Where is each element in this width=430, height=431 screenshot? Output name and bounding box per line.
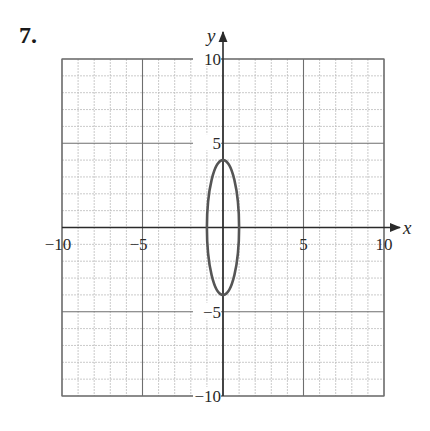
figure: 7. −10−5510105−5−10 x y (0, 0, 430, 431)
y-tick-label: 10 (204, 50, 221, 69)
x-tick-label: −10 (45, 235, 72, 254)
x-tick-label: 10 (376, 235, 393, 254)
y-tick-label: 5 (213, 134, 222, 153)
y-tick-label: −5 (203, 303, 221, 322)
x-axis-label: x (402, 217, 412, 238)
x-tick-label: −5 (129, 235, 147, 254)
y-tick-label: −10 (194, 387, 221, 406)
y-axis-label: y (205, 25, 216, 46)
problem-number: 7. (19, 22, 37, 49)
coordinate-plane: −10−5510105−5−10 x y (0, 0, 430, 431)
x-tick-label: 5 (299, 235, 308, 254)
